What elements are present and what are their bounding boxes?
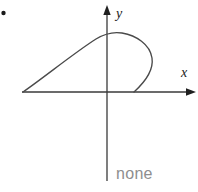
- bullet-marker-icon: [1, 11, 5, 15]
- arrow-right-icon: [186, 88, 196, 96]
- y-axis-label: y: [114, 6, 123, 21]
- caption-none: none: [116, 165, 153, 183]
- coordinate-plot: y x: [0, 0, 198, 192]
- loop-curve-path: [23, 33, 152, 92]
- arrow-up-icon: [103, 5, 110, 15]
- figure-container: y x none: [0, 0, 198, 192]
- x-axis-label: x: [180, 65, 188, 80]
